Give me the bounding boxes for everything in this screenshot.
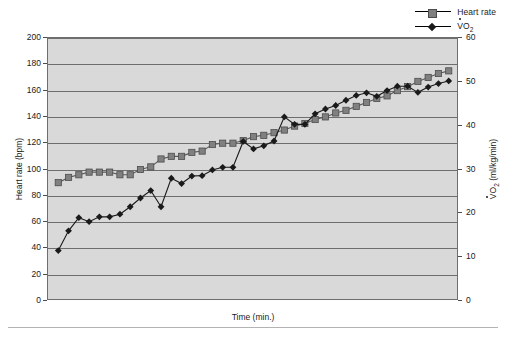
- y-tick-label-left: 80: [13, 190, 41, 200]
- y-tick-label-right: 20: [466, 207, 475, 217]
- vo2-axis-units: (ml/kg/min): [488, 138, 498, 182]
- y-tick-mark-left: [43, 90, 47, 91]
- y-tick-mark-right: [458, 125, 462, 126]
- y-tick-label-left: 40: [13, 242, 41, 252]
- legend-marker-diamond: [415, 21, 451, 32]
- plot-area: [47, 37, 458, 300]
- data-point-heart-rate: [148, 164, 154, 170]
- data-point-heart-rate: [446, 68, 452, 74]
- data-point-heart-rate: [178, 153, 184, 159]
- data-point-vo2: [435, 80, 442, 87]
- legend-item-heart-rate: Heart rate: [415, 5, 496, 18]
- data-point-heart-rate: [343, 107, 349, 113]
- y-tick-mark-left: [43, 63, 47, 64]
- y-tick-mark-left: [43, 169, 47, 170]
- data-point-vo2: [445, 78, 452, 85]
- data-point-heart-rate: [333, 110, 339, 116]
- data-point-heart-rate: [76, 172, 82, 178]
- y-tick-label-left: 140: [13, 111, 41, 121]
- data-point-heart-rate: [415, 78, 421, 84]
- y-tick-mark-left: [43, 221, 47, 222]
- y-tick-mark-right: [458, 212, 462, 213]
- data-point-heart-rate: [127, 172, 133, 178]
- y-tick-label-left: 200: [13, 32, 41, 42]
- data-point-vo2: [106, 213, 113, 220]
- y-tick-label-right: 0: [466, 295, 471, 305]
- data-point-heart-rate: [96, 169, 102, 175]
- data-point-vo2: [219, 164, 226, 171]
- data-point-vo2: [96, 213, 103, 220]
- data-point-heart-rate: [107, 169, 113, 175]
- data-point-heart-rate: [250, 134, 256, 140]
- series-layer: [48, 38, 459, 301]
- data-point-heart-rate: [199, 148, 205, 154]
- chart-legend: Heart rate VO2: [415, 5, 496, 35]
- x-axis-label: Time (min.): [47, 312, 459, 322]
- data-point-heart-rate: [353, 103, 359, 109]
- data-point-vo2: [425, 84, 432, 91]
- y-tick-mark-left: [43, 274, 47, 275]
- data-point-heart-rate: [189, 149, 195, 155]
- data-point-heart-rate: [137, 166, 143, 172]
- y-tick-label-left: 20: [13, 269, 41, 279]
- data-point-heart-rate: [209, 141, 215, 147]
- data-point-heart-rate: [312, 116, 318, 122]
- data-point-heart-rate: [281, 127, 287, 133]
- data-point-vo2: [332, 102, 339, 109]
- data-point-heart-rate: [117, 172, 123, 178]
- y-tick-label-left: 120: [13, 137, 41, 147]
- y-tick-label-right: 60: [466, 32, 475, 42]
- y-axis-label-right: VO2 (ml/kg/min): [488, 89, 500, 249]
- data-point-vo2: [168, 175, 175, 182]
- data-point-heart-rate: [55, 180, 61, 186]
- data-point-heart-rate: [261, 132, 267, 138]
- data-point-vo2: [260, 142, 267, 149]
- vo2-overdot: VO: [457, 21, 469, 31]
- y-tick-label-left: 100: [13, 164, 41, 174]
- y-tick-label-left: 0: [13, 295, 41, 305]
- legend-label-heart-rate: Heart rate: [457, 7, 496, 17]
- data-point-heart-rate: [363, 99, 369, 105]
- y-tick-label-left: 160: [13, 85, 41, 95]
- data-point-heart-rate: [435, 70, 441, 76]
- data-point-vo2: [353, 92, 360, 99]
- vo2-axis-main: O: [488, 186, 498, 193]
- y-tick-mark-right: [458, 169, 462, 170]
- series-line-heart-rate: [58, 71, 448, 183]
- y-tick-mark-left: [43, 247, 47, 248]
- bottom-divider: [8, 327, 498, 328]
- y-tick-label-right: 10: [466, 251, 475, 261]
- y-tick-label-right: 40: [466, 120, 475, 130]
- y-tick-mark-right: [458, 37, 462, 38]
- data-point-vo2: [415, 89, 422, 96]
- data-point-heart-rate: [168, 153, 174, 159]
- y-tick-label-right: 30: [466, 164, 475, 174]
- y-tick-mark-left: [43, 142, 47, 143]
- y-tick-mark-left: [43, 195, 47, 196]
- data-point-vo2: [271, 138, 278, 145]
- data-point-vo2: [209, 167, 216, 174]
- data-point-vo2: [343, 97, 350, 104]
- y-tick-mark-right: [458, 300, 462, 301]
- y-tick-mark-right: [458, 256, 462, 257]
- series-line-vo2: [58, 81, 448, 251]
- y-tick-mark-left: [43, 116, 47, 117]
- y-tick-mark-right: [458, 81, 462, 82]
- data-point-heart-rate: [425, 74, 431, 80]
- data-point-vo2: [363, 89, 370, 96]
- data-point-vo2: [199, 172, 206, 179]
- legend-item-vo2: VO2: [415, 20, 496, 33]
- chart-figure: Heart rate VO2 Heart rate (bpm) VO2 (ml/…: [0, 0, 506, 341]
- y-tick-mark-left: [43, 300, 47, 301]
- data-point-heart-rate: [220, 140, 226, 146]
- data-point-vo2: [322, 106, 329, 113]
- data-point-heart-rate: [65, 174, 71, 180]
- data-point-heart-rate: [86, 169, 92, 175]
- y-tick-label-right: 50: [466, 76, 475, 86]
- y-tick-label-left: 60: [13, 216, 41, 226]
- data-point-vo2: [158, 203, 165, 210]
- data-point-heart-rate: [322, 114, 328, 120]
- data-point-vo2: [230, 164, 237, 171]
- data-point-vo2: [55, 247, 62, 254]
- data-point-heart-rate: [158, 156, 164, 162]
